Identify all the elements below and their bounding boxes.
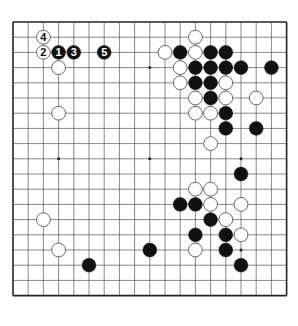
black-stone	[219, 243, 233, 257]
stone-disc	[204, 76, 218, 90]
move-number: 3	[71, 46, 77, 58]
black-stone	[82, 258, 96, 272]
white-stone	[189, 46, 203, 60]
black-stone: 5	[97, 46, 111, 60]
stone-disc	[234, 258, 248, 272]
stone-disc	[204, 213, 218, 227]
stone-disc	[189, 30, 203, 44]
black-stone	[234, 258, 248, 272]
move-number: 4	[40, 31, 47, 43]
stone-disc	[204, 106, 218, 120]
white-stone	[158, 46, 172, 60]
white-stone	[189, 106, 203, 120]
stone-disc	[173, 61, 187, 75]
white-stone	[204, 106, 218, 120]
black-stone	[249, 121, 263, 135]
black-stone	[204, 91, 218, 105]
stone-disc	[204, 61, 218, 75]
stone-disc	[189, 182, 203, 196]
move-number: 5	[101, 46, 107, 58]
stone-disc	[219, 213, 233, 227]
stone-disc	[249, 91, 263, 105]
stones: 42135	[37, 30, 279, 272]
star-point	[240, 249, 243, 252]
white-stone	[204, 137, 218, 151]
stone-disc	[189, 198, 203, 212]
stone-disc	[52, 106, 66, 120]
stone-disc	[219, 46, 233, 60]
black-stone	[204, 61, 218, 75]
stone-disc	[204, 198, 218, 212]
star-point	[148, 66, 151, 69]
move-number: 2	[40, 46, 46, 58]
stone-disc	[189, 243, 203, 257]
stone-disc	[52, 61, 66, 75]
black-stone	[189, 228, 203, 242]
white-stone	[204, 198, 218, 212]
white-stone	[189, 243, 203, 257]
stone-disc	[219, 91, 233, 105]
white-stone	[249, 91, 263, 105]
black-stone	[173, 198, 187, 212]
black-stone	[219, 228, 233, 242]
black-stone	[234, 61, 248, 75]
black-stone	[189, 61, 203, 75]
stone-disc	[204, 46, 218, 60]
black-stone	[204, 76, 218, 90]
black-stone	[204, 213, 218, 227]
white-stone	[189, 182, 203, 196]
stone-disc	[204, 182, 218, 196]
stone-disc	[219, 76, 233, 90]
white-stone	[52, 106, 66, 120]
stone-disc	[234, 198, 248, 212]
black-stone: 1	[52, 46, 66, 60]
star-point	[148, 157, 151, 160]
white-stone	[219, 91, 233, 105]
stone-disc	[158, 46, 172, 60]
black-stone	[204, 46, 218, 60]
stone-disc	[265, 61, 279, 75]
star-point	[240, 157, 243, 160]
stone-disc	[173, 46, 187, 60]
stone-disc	[189, 76, 203, 90]
stone-disc	[219, 243, 233, 257]
stone-disc	[189, 46, 203, 60]
move-number: 1	[56, 46, 62, 58]
stone-disc	[173, 198, 187, 212]
white-stone: 2	[37, 46, 51, 60]
white-stone	[189, 30, 203, 44]
black-stone	[219, 121, 233, 135]
stone-disc	[189, 228, 203, 242]
white-stone	[52, 243, 66, 257]
white-stone	[219, 213, 233, 227]
stone-disc	[82, 258, 96, 272]
stone-disc	[189, 106, 203, 120]
white-stone	[189, 91, 203, 105]
stone-disc	[37, 213, 51, 227]
star-point	[57, 157, 60, 160]
white-stone	[234, 198, 248, 212]
white-stone	[173, 61, 187, 75]
go-board: 42135	[0, 0, 298, 326]
stone-disc	[234, 228, 248, 242]
stone-disc	[234, 61, 248, 75]
white-stone: 4	[37, 30, 51, 44]
stone-disc	[189, 61, 203, 75]
white-stone	[173, 76, 187, 90]
stone-disc	[219, 228, 233, 242]
white-stone	[219, 76, 233, 90]
black-stone	[173, 46, 187, 60]
black-stone	[189, 76, 203, 90]
stone-disc	[143, 243, 157, 257]
stone-disc	[204, 137, 218, 151]
white-stone	[37, 213, 51, 227]
stone-disc	[204, 91, 218, 105]
stone-disc	[219, 121, 233, 135]
black-stone	[219, 61, 233, 75]
stone-disc	[219, 106, 233, 120]
black-stone	[234, 167, 248, 181]
stone-disc	[52, 243, 66, 257]
black-stone	[219, 106, 233, 120]
stone-disc	[189, 91, 203, 105]
white-stone	[204, 182, 218, 196]
